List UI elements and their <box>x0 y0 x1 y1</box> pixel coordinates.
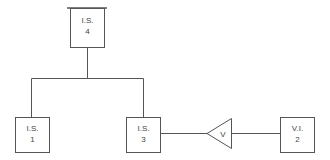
node-vi2-label-1: V.I. <box>292 124 303 133</box>
node-vi2-label-2: 2 <box>295 135 300 144</box>
block-diagram: I.S. 4 I.S. 1 I.S. 3 V.I. 2 V <box>0 0 330 160</box>
node-is4-label-1: I.S. <box>81 16 93 25</box>
amplifier-triangle-icon <box>207 119 232 149</box>
node-is1-label-2: 1 <box>30 135 35 144</box>
node-is3-label-1: I.S. <box>137 124 149 133</box>
amplifier-label: V <box>220 130 226 139</box>
node-is3-label-2: 3 <box>141 135 146 144</box>
node-is4-label-2: 4 <box>85 27 90 36</box>
node-is1-label-1: I.S. <box>26 124 38 133</box>
